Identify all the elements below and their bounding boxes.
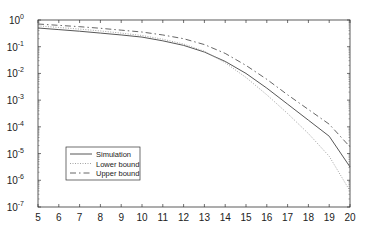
x-tick-label: 9 — [118, 212, 124, 223]
legend-label: Upper bound — [96, 169, 139, 178]
chart: 56789101112131415161718192010010-110-210… — [0, 0, 371, 234]
x-tick-label: 12 — [178, 212, 190, 223]
x-tick-label: 20 — [344, 212, 356, 223]
x-tick-label: 10 — [136, 212, 148, 223]
y-tick-label: 10-3 — [7, 93, 24, 106]
x-tick-label: 15 — [240, 212, 252, 223]
y-tick-label: 10-7 — [7, 200, 24, 213]
y-tick-label: 10-1 — [7, 40, 24, 53]
x-tick-label: 11 — [158, 212, 169, 223]
x-tick-label: 14 — [220, 212, 232, 223]
x-tick-label: 18 — [303, 212, 315, 223]
x-tick-label: 6 — [56, 212, 62, 223]
x-tick-label: 17 — [282, 212, 294, 223]
y-tick-label: 10-4 — [7, 120, 24, 133]
x-tick-label: 5 — [35, 212, 41, 223]
x-tick-label: 8 — [98, 212, 104, 223]
legend-label: Lower bound — [96, 160, 139, 169]
y-tick-label: 100 — [9, 13, 24, 26]
x-tick-label: 19 — [324, 212, 336, 223]
y-tick-label: 10-6 — [7, 173, 24, 186]
x-tick-label: 13 — [199, 212, 211, 223]
legend-label: Simulation — [96, 150, 131, 159]
legend: SimulationLower boundUpper bound — [66, 147, 140, 180]
x-tick-label: 16 — [261, 212, 273, 223]
x-tick-label: 7 — [77, 212, 83, 223]
y-tick-label: 10-5 — [7, 147, 24, 160]
y-tick-label: 10-2 — [7, 66, 24, 79]
